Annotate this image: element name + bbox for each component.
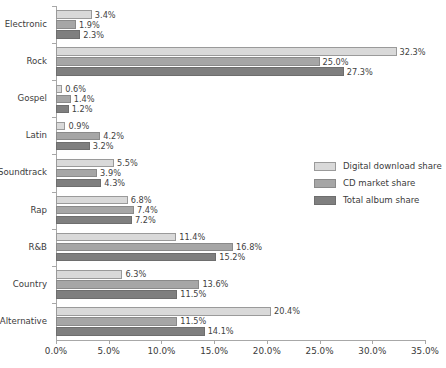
bar-value-label: 5.5%: [117, 159, 138, 167]
bar-value-label: 11.5%: [180, 290, 206, 298]
bar-0: [56, 159, 114, 168]
category-row: Rock32.3%25.0%27.3%: [56, 43, 425, 80]
bar-value-label: 3.9%: [100, 169, 121, 177]
x-axis-tick-label: 25.0%: [306, 347, 334, 356]
bar-1: [56, 317, 177, 326]
bar-value-label: 1.2%: [72, 105, 93, 113]
bar-value-label: 27.3%: [347, 68, 373, 76]
bar-1: [56, 95, 71, 104]
bar-0: [56, 270, 122, 279]
y-axis-tick: [52, 43, 56, 44]
bar-0: [56, 85, 62, 94]
bar-value-label: 4.3%: [104, 179, 125, 187]
category-label: Alternative: [0, 317, 47, 326]
bar-value-label: 0.9%: [68, 122, 89, 130]
bar-2: [56, 290, 177, 299]
bar-value-label: 15.2%: [219, 253, 245, 261]
legend-item[interactable]: Digital download share: [314, 159, 442, 173]
bar-1: [56, 57, 320, 66]
x-axis-tick-label: 30.0%: [358, 347, 386, 356]
bar-value-label: 25.0%: [323, 58, 349, 66]
category-label: Gospel: [17, 94, 47, 103]
bar-value-label: 3.2%: [93, 142, 114, 150]
bar-value-label: 16.8%: [236, 243, 262, 251]
legend-label: Total album share: [343, 196, 419, 205]
x-axis-tick: [372, 340, 373, 344]
category-label: Soundtrack: [0, 168, 47, 177]
bar-value-label: 0.6%: [65, 85, 86, 93]
bar-0: [56, 10, 92, 19]
bar-value-label: 7.4%: [137, 206, 158, 214]
bar-value-label: 13.6%: [202, 280, 228, 288]
bar-0: [56, 307, 271, 316]
chart-legend: Digital download shareCD market shareTot…: [314, 159, 442, 210]
y-axis-tick: [52, 192, 56, 193]
bar-chart: Electronic3.4%1.9%2.3%Rock32.3%25.0%27.3…: [0, 0, 446, 368]
y-axis-tick: [52, 80, 56, 81]
x-axis-tick: [425, 340, 426, 344]
bar-value-label: 2.3%: [83, 31, 104, 39]
category-label: Rap: [30, 206, 47, 215]
x-axis-tick-label: 5.0%: [98, 347, 120, 356]
category-label: R&B: [28, 243, 47, 252]
bar-2: [56, 105, 69, 114]
category-label: Latin: [26, 131, 47, 140]
legend-swatch-icon: [314, 196, 336, 205]
bar-1: [56, 243, 233, 252]
legend-swatch-icon: [314, 162, 336, 171]
x-axis-tick: [320, 340, 321, 344]
bar-2: [56, 253, 216, 262]
legend-label: Digital download share: [343, 162, 442, 171]
legend-item[interactable]: CD market share: [314, 176, 442, 190]
legend-item[interactable]: Total album share: [314, 193, 442, 207]
legend-label: CD market share: [343, 179, 415, 188]
y-axis-tick: [52, 303, 56, 304]
x-axis-tick-label: 20.0%: [253, 347, 281, 356]
category-label: Rock: [26, 57, 47, 66]
y-axis-tick: [52, 117, 56, 118]
bar-1: [56, 169, 97, 178]
category-label: Electronic: [5, 20, 47, 29]
category-row: Electronic3.4%1.9%2.3%: [56, 6, 425, 43]
category-row: Gospel0.6%1.4%1.2%: [56, 80, 425, 117]
bar-value-label: 14.1%: [208, 327, 234, 335]
bar-1: [56, 280, 199, 289]
y-axis-tick: [52, 154, 56, 155]
x-axis-tick-label: 35.0%: [411, 347, 439, 356]
category-row: Latin0.9%4.2%3.2%: [56, 117, 425, 154]
legend-swatch-icon: [314, 179, 336, 188]
bar-value-label: 6.8%: [131, 196, 152, 204]
bar-2: [56, 179, 101, 188]
y-axis-tick: [52, 229, 56, 230]
bar-value-label: 6.3%: [125, 270, 146, 278]
bar-0: [56, 196, 128, 205]
bar-1: [56, 20, 76, 29]
bar-1: [56, 206, 134, 215]
bar-2: [56, 30, 80, 39]
bar-2: [56, 142, 90, 151]
x-axis-tick: [56, 340, 57, 344]
x-axis-tick: [109, 340, 110, 344]
bar-0: [56, 122, 65, 131]
bar-value-label: 1.4%: [74, 95, 95, 103]
y-axis-tick: [52, 266, 56, 267]
category-row: Country6.3%13.6%11.5%: [56, 266, 425, 303]
category-row: R&B11.4%16.8%15.2%: [56, 229, 425, 266]
bar-0: [56, 233, 176, 242]
x-axis-tick-label: 10.0%: [147, 347, 175, 356]
bar-value-label: 3.4%: [95, 11, 116, 19]
bar-value-label: 11.5%: [180, 317, 206, 325]
bar-value-label: 20.4%: [274, 307, 300, 315]
x-axis-line: [56, 340, 426, 341]
bar-value-label: 7.2%: [135, 216, 156, 224]
bar-2: [56, 216, 132, 225]
x-axis-tick-label: 0.0%: [45, 347, 67, 356]
x-axis-tick-label: 15.0%: [200, 347, 228, 356]
category-row: Alternative20.4%11.5%14.1%: [56, 303, 425, 340]
x-axis-tick: [161, 340, 162, 344]
category-label: Country: [13, 280, 47, 289]
bar-value-label: 32.3%: [400, 48, 426, 56]
bar-2: [56, 67, 344, 76]
bar-1: [56, 132, 100, 141]
x-axis-tick: [214, 340, 215, 344]
